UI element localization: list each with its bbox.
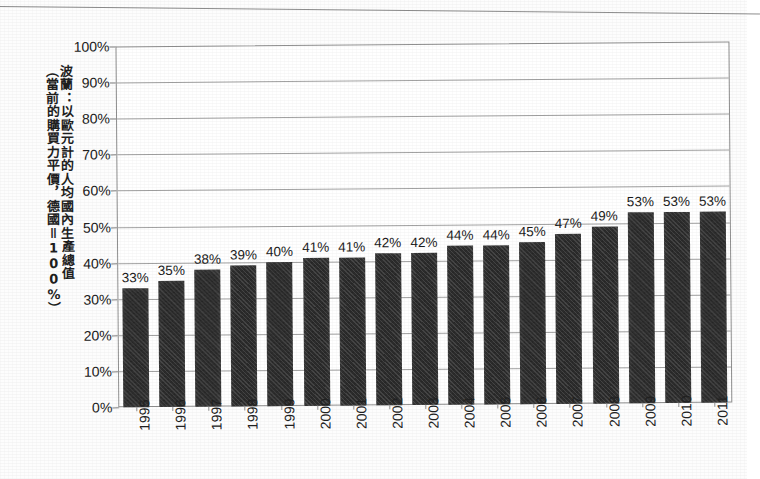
y-tick-label: 20% <box>52 327 112 343</box>
x-tick-label: 1995 <box>136 400 152 431</box>
bar[interactable] <box>303 258 330 406</box>
y-tick-label: 10% <box>52 363 112 379</box>
x-tick-label: 1997 <box>209 399 225 430</box>
x-tick-slot: 2005 <box>479 408 516 468</box>
bar-chart-figure: 波蘭：以歐元計的人均國內生產總值 （當前的購買力平價，德國＝100%） 0%10… <box>0 0 749 479</box>
bar-slot: 53% <box>657 42 696 403</box>
x-tick-label: 2006 <box>534 396 550 427</box>
y-tick-label: 50% <box>51 219 111 235</box>
bar-slot: 42% <box>368 44 407 405</box>
x-tick-slot: 2000 <box>299 410 336 470</box>
x-tick-label: 1996 <box>172 399 188 430</box>
x-tick-label: 2007 <box>570 396 586 427</box>
x-tick-label: 2003 <box>425 397 441 428</box>
x-tick-label: 2008 <box>606 396 622 427</box>
x-tick-slot: 2009 <box>624 407 661 467</box>
bar[interactable] <box>231 266 258 407</box>
bar[interactable] <box>194 269 221 406</box>
bar[interactable] <box>447 246 474 405</box>
bar[interactable] <box>519 242 546 405</box>
bar-slot: 49% <box>585 42 624 403</box>
bar[interactable] <box>375 254 402 406</box>
bar[interactable] <box>158 281 185 408</box>
bar[interactable] <box>339 257 366 405</box>
x-tick-slot: 2008 <box>588 407 625 467</box>
bar-slot: 33% <box>115 46 154 407</box>
x-tick-label: 2011 <box>714 396 730 426</box>
y-tick-label: 80% <box>50 111 110 127</box>
y-tick-label: 100% <box>49 38 109 54</box>
x-tick-slot: 2002 <box>371 409 408 469</box>
bar-value-label: 53% <box>691 193 735 208</box>
bar-value-label: 49% <box>582 209 626 224</box>
x-tick-slot: 1996 <box>154 411 191 471</box>
bar[interactable] <box>267 262 294 407</box>
bar[interactable] <box>627 212 655 404</box>
bar-slot: 41% <box>332 44 371 405</box>
bar-slot: 38% <box>188 46 227 407</box>
x-tick-slot: 2006 <box>516 408 553 468</box>
x-tick-slot: 2011 <box>696 407 733 467</box>
x-tick-label: 2005 <box>497 397 513 428</box>
y-tick-label: 0% <box>52 399 112 415</box>
x-tick-label: 1999 <box>281 398 297 429</box>
y-axis: 0%10%20%30%40%50%60%70%80%90%100% <box>0 0 745 3</box>
x-tick-label: 2009 <box>642 396 658 427</box>
x-tick-slot: 1998 <box>227 410 264 470</box>
x-tick-slot: 1997 <box>191 411 228 471</box>
bar-slot: 35% <box>152 46 191 407</box>
x-tick-slot: 2007 <box>552 408 589 468</box>
bar-series: 33%35%38%39%40%41%41%42%42%44%44%45%47%4… <box>115 42 732 408</box>
bar-slot: 44% <box>441 44 480 405</box>
x-tick-label: 2002 <box>389 398 405 429</box>
bar[interactable] <box>555 234 582 404</box>
bar[interactable] <box>591 227 618 404</box>
bar-slot: 42% <box>404 44 443 405</box>
y-tick-mark <box>112 407 119 408</box>
x-tick-slot: 2001 <box>335 409 372 469</box>
x-tick-label: 2000 <box>317 398 333 429</box>
x-tick-slot: 2004 <box>443 409 480 469</box>
x-tick-slot: 2010 <box>660 407 697 467</box>
x-tick-label: 2010 <box>678 395 694 426</box>
bar[interactable] <box>483 245 510 404</box>
x-tick-label: 2001 <box>353 398 369 429</box>
bar-slot: 41% <box>296 45 335 406</box>
x-tick-slot: 1999 <box>263 410 300 470</box>
bar-slot: 40% <box>260 45 299 406</box>
bar-slot: 39% <box>224 45 263 406</box>
bar-slot: 53% <box>621 42 660 403</box>
y-tick-label: 60% <box>51 183 111 199</box>
y-tick-label: 90% <box>50 75 110 91</box>
bar[interactable] <box>664 212 692 404</box>
bar[interactable] <box>700 211 728 403</box>
bar-slot: 53% <box>693 42 732 403</box>
x-axis: 1995199619971998199920002001200220032004… <box>118 407 732 472</box>
x-tick-label: 2004 <box>461 397 477 428</box>
bar[interactable] <box>411 253 438 405</box>
y-tick-label: 40% <box>51 255 111 271</box>
x-tick-label: 1998 <box>245 399 261 430</box>
bar[interactable] <box>122 288 149 407</box>
x-tick-slot: 1995 <box>118 411 155 471</box>
y-tick-label: 70% <box>50 147 110 163</box>
y-tick-label: 30% <box>51 291 111 307</box>
y-axis-title-line-1: 波蘭：以歐元計的人均國內生產總值 <box>60 65 75 281</box>
x-tick-slot: 2003 <box>407 409 444 469</box>
